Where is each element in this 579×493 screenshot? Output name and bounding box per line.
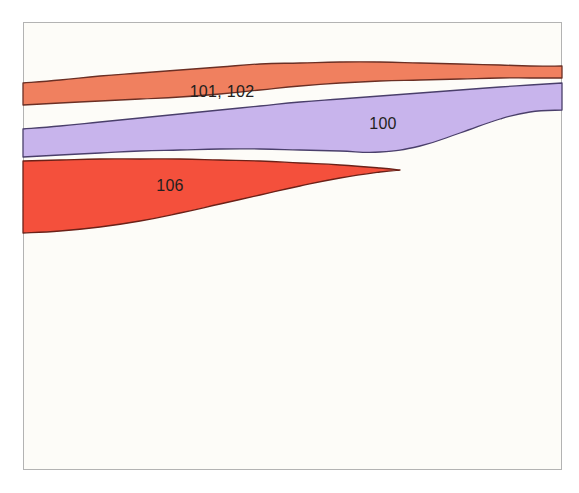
band-diagram-canvas bbox=[0, 0, 579, 493]
figure-root: 101, 102 100 106 bbox=[0, 0, 579, 493]
